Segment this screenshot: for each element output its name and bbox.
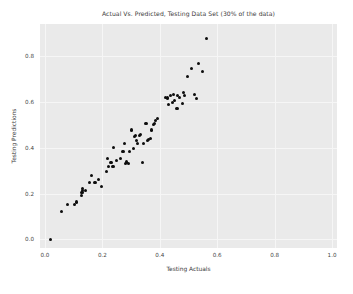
gridline-vertical-5 <box>332 24 333 248</box>
gridline-vertical-4 <box>275 24 276 248</box>
scatter-point <box>90 174 93 177</box>
scatter-point <box>128 150 131 153</box>
scatter-point <box>142 142 145 145</box>
scatter-point <box>88 181 91 184</box>
y-axis-label: Testing Predictions <box>11 76 17 196</box>
x-tick-label-1: 0.2 <box>98 252 107 258</box>
x-tick-label-5: 1.0 <box>328 252 337 258</box>
scatter-point <box>183 94 186 97</box>
scatter-point <box>112 146 115 149</box>
gridline-horizontal-0 <box>40 239 337 240</box>
scatter-point <box>197 62 200 65</box>
scatter-point <box>127 162 130 165</box>
scatter-point <box>66 203 69 206</box>
gridline-vertical-1 <box>102 24 103 248</box>
x-tick-label-0: 0.0 <box>40 252 49 258</box>
gridline-vertical-3 <box>217 24 218 248</box>
gridline-horizontal-1 <box>40 194 337 195</box>
scatter-point <box>167 103 170 106</box>
x-tick-label-4: 0.8 <box>270 252 279 258</box>
gridline-horizontal-4 <box>40 56 337 57</box>
scatter-point <box>181 102 184 105</box>
scatter-point <box>106 157 109 160</box>
scatter-point <box>84 189 87 192</box>
gridline-vertical-2 <box>160 24 161 248</box>
scatter-point <box>153 122 156 125</box>
scatter-point <box>100 185 103 188</box>
scatter-point <box>149 137 152 140</box>
scatter-point <box>73 203 76 206</box>
scatter-point <box>107 165 110 168</box>
scatter-point <box>195 97 198 100</box>
scatter-point <box>130 128 133 131</box>
scatter-point <box>186 75 189 78</box>
gridline-horizontal-2 <box>40 148 337 149</box>
scatter-point <box>136 142 139 145</box>
scatter-point <box>178 96 181 99</box>
scatter-point <box>201 70 204 73</box>
scatter-point <box>166 96 169 99</box>
scatter-point <box>60 210 63 213</box>
x-tick-label-3: 0.6 <box>213 252 222 258</box>
scatter-point <box>190 67 193 70</box>
chart-title: Actual Vs. Predicted, Testing Data Set (… <box>40 10 337 17</box>
gridline-vertical-0 <box>45 24 46 248</box>
plot-area <box>40 24 337 248</box>
scatter-point <box>111 165 114 168</box>
scatter-point <box>105 170 108 173</box>
scatter-point <box>80 194 83 197</box>
scatter-point <box>119 157 122 160</box>
scatter-point <box>123 142 126 145</box>
x-axis-label: Testing Actuals <box>40 266 337 272</box>
scatter-point <box>109 161 112 164</box>
scatter-point <box>175 107 178 110</box>
scatter-point <box>141 161 144 164</box>
gridline-horizontal-3 <box>40 102 337 103</box>
scatter-point <box>121 150 124 153</box>
scatter-point <box>97 178 100 181</box>
scatter-point <box>75 200 78 203</box>
scatter-point <box>144 122 147 125</box>
scatter-point <box>94 181 97 184</box>
scatter-point <box>193 93 196 96</box>
scatter-point <box>49 238 52 241</box>
scatter-point <box>172 93 175 96</box>
scatter-point <box>115 159 118 162</box>
chart-figure: Actual Vs. Predicted, Testing Data Set (… <box>0 0 353 294</box>
x-tick-label-2: 0.4 <box>155 252 164 258</box>
scatter-point <box>150 128 153 131</box>
scatter-point <box>156 117 159 120</box>
scatter-point <box>139 133 142 136</box>
scatter-point <box>205 37 208 40</box>
